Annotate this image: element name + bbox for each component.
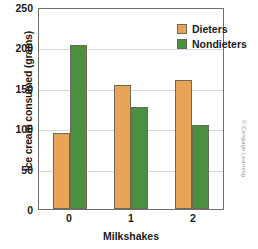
bar-group-0	[53, 9, 87, 209]
y-tick-label: 50	[21, 164, 33, 176]
bar-nondieters-1[interactable]	[131, 107, 148, 209]
y-tick-label: 200	[15, 42, 33, 54]
bar-nondieters-0[interactable]	[70, 45, 87, 209]
legend-item-nondieters[interactable]: Nondieters	[177, 38, 247, 50]
bar-nondieters-2[interactable]	[192, 125, 209, 209]
x-axis-title: Milkshakes	[38, 230, 224, 242]
legend-label: Dieters	[192, 23, 228, 35]
legend-swatch-icon	[177, 24, 187, 34]
plot-area: Dieters Nondieters	[38, 8, 224, 210]
x-tick-label: 1	[111, 212, 151, 228]
bar-chart-figure: Ice cream consumed (grams) 250 200 150 1…	[0, 0, 258, 249]
bar-group-1	[114, 9, 148, 209]
y-axis-tick-labels: 250 200 150 100 50 0	[0, 0, 36, 210]
chart-legend: Dieters Nondieters	[177, 23, 247, 53]
bar-dieters-2[interactable]	[175, 80, 192, 209]
y-tick-label: 0	[27, 204, 33, 216]
legend-swatch-icon	[177, 39, 187, 49]
y-tick-label: 100	[15, 123, 33, 135]
bar-dieters-1[interactable]	[114, 85, 131, 209]
bar-dieters-0[interactable]	[53, 133, 70, 209]
x-tick-label: 2	[173, 212, 213, 228]
y-tick-label: 250	[15, 2, 33, 14]
x-tick-label: 0	[49, 212, 89, 228]
x-axis-tick-labels: 0 1 2	[38, 212, 224, 228]
legend-label: Nondieters	[192, 38, 247, 50]
legend-item-dieters[interactable]: Dieters	[177, 23, 247, 35]
copyright-credit: © Cengage Learning	[241, 120, 247, 196]
y-tick-label: 150	[15, 83, 33, 95]
